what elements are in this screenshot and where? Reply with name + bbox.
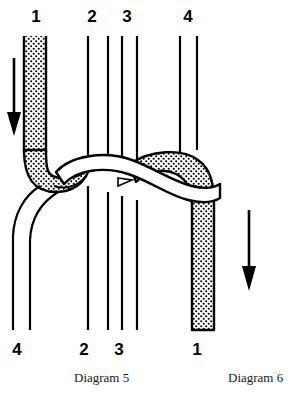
cord-1-band-fill — [24, 36, 46, 154]
cord-4-top — [180, 36, 197, 156]
bottom-label-1: 1 — [187, 341, 207, 358]
top-label-1: 1 — [26, 8, 46, 25]
caption-diagram-6: Diagram 6 — [228, 370, 283, 385]
cord-4-strand-outer — [13, 186, 40, 330]
knot-diagram-figure: 1 2 3 4 4 2 3 1 Diagram 5 Diagram 6 — [0, 0, 295, 397]
right-down-arrow — [242, 210, 256, 291]
left-down-arrow — [7, 58, 21, 136]
filler-cords-top — [88, 36, 137, 160]
cord-4-strand-inner — [30, 192, 58, 330]
bottom-label-2: 2 — [74, 341, 94, 358]
knot-diagram-svg — [0, 0, 295, 397]
cord-1-top-segment — [24, 36, 46, 154]
right-arrow-head — [242, 266, 256, 291]
cord-group — [7, 36, 256, 330]
filler-cords-bottom — [88, 186, 137, 330]
bottom-label-4: 4 — [7, 341, 27, 358]
top-label-3: 3 — [117, 8, 137, 25]
bottom-label-3: 3 — [109, 341, 129, 358]
top-label-4: 4 — [178, 8, 198, 25]
cord-4-tuck-wedge — [118, 178, 132, 186]
top-label-2: 2 — [82, 8, 102, 25]
left-arrow-head — [7, 112, 21, 136]
cord-4-bottom-strands — [13, 186, 58, 330]
caption-diagram-5: Diagram 5 — [74, 370, 129, 385]
